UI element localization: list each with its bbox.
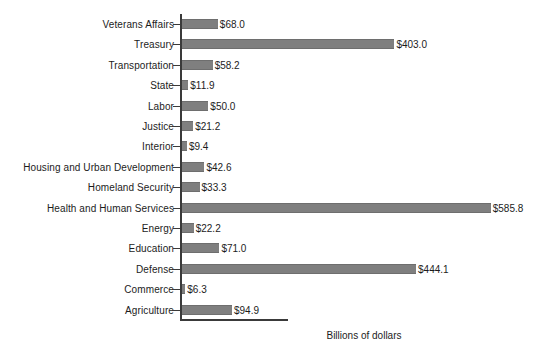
axis-tick (173, 310, 180, 311)
bar-row: Housing and Urban Development$42.6 (0, 157, 548, 178)
category-label: Commerce (124, 279, 174, 300)
bar-row: Justice$21.2 (0, 116, 548, 137)
bar-value-label: $21.2 (194, 121, 220, 132)
category-label: Education (129, 238, 174, 259)
category-label: Veterans Affairs (103, 14, 174, 35)
bar (182, 19, 218, 29)
axis-tick (173, 65, 180, 66)
category-label: Housing and Urban Development (23, 157, 174, 178)
category-label: Treasury (134, 34, 174, 55)
bar (182, 80, 188, 90)
bar-value-label: $11.9 (189, 80, 214, 91)
plot-area: Veterans Affairs$68.0Treasury$403.0Trans… (0, 0, 548, 349)
bar-row: Commerce$6.3 (0, 279, 548, 300)
bar-row: Homeland Security$33.3 (0, 177, 548, 198)
bar-value-label: $22.2 (195, 223, 221, 234)
category-label: Defense (136, 259, 174, 280)
bar-row: Health and Human Services$585.8 (0, 198, 548, 219)
bar-value-label: $33.3 (201, 182, 227, 193)
bar-row: Veterans Affairs$68.0 (0, 14, 548, 35)
bar-row: Transportation$58.2 (0, 55, 548, 76)
category-label: Health and Human Services (47, 198, 174, 219)
axis-tick (173, 106, 180, 107)
axis-tick (173, 24, 180, 25)
bar-row: Labor$50.0 (0, 96, 548, 117)
bar-row: State$11.9 (0, 75, 548, 96)
category-label: Energy (142, 218, 174, 239)
bar-row: Treasury$403.0 (0, 34, 548, 55)
category-label: Justice (142, 116, 174, 137)
bar-value-label: $42.6 (205, 162, 231, 173)
axis-tick (173, 289, 180, 290)
bar-value-label: $94.9 (233, 305, 259, 316)
axis-tick (173, 85, 180, 86)
bar (182, 141, 187, 151)
bar-value-label: $50.0 (209, 101, 235, 112)
category-label: Agriculture (125, 300, 174, 321)
category-label: Interior (142, 136, 174, 157)
bar (182, 121, 193, 131)
bar (182, 60, 213, 70)
axis-tick (173, 146, 180, 147)
category-label: Labor (148, 96, 174, 117)
axis-tick (173, 187, 180, 188)
bar-value-label: $6.3 (186, 284, 206, 295)
bar (182, 39, 394, 49)
bar-row: Education$71.0 (0, 238, 548, 259)
bar (182, 223, 194, 233)
bar-value-label: $444.1 (417, 264, 449, 275)
axis-tick (173, 228, 180, 229)
bar-row: Interior$9.4 (0, 136, 548, 157)
bar (182, 203, 491, 213)
axis-tick (173, 248, 180, 249)
bar (182, 243, 219, 253)
bar (182, 305, 232, 315)
bar (182, 182, 200, 192)
bar (182, 101, 208, 111)
bar-chart: Veterans Affairs$68.0Treasury$403.0Trans… (0, 0, 548, 349)
bar-row: Energy$22.2 (0, 218, 548, 239)
bar-value-label: $403.0 (395, 39, 427, 50)
bar-row: Agriculture$94.9 (0, 300, 548, 321)
bar-value-label: $71.0 (220, 243, 246, 254)
bar (182, 162, 204, 172)
bar (182, 264, 416, 274)
bar-value-label: $68.0 (219, 19, 245, 30)
axis-tick (173, 269, 180, 270)
bar-value-label: $58.2 (214, 60, 240, 71)
bar-value-label: $9.4 (188, 141, 208, 152)
axis-tick (173, 126, 180, 127)
bar-row: Defense$444.1 (0, 259, 548, 280)
bar-value-label: $585.8 (492, 203, 524, 214)
axis-tick (173, 44, 180, 45)
category-label: State (150, 75, 174, 96)
bar (182, 284, 185, 294)
axis-tick (173, 167, 180, 168)
x-axis-title: Billions of dollars (180, 330, 548, 341)
axis-tick (173, 208, 180, 209)
category-label: Transportation (108, 55, 174, 76)
category-label: Homeland Security (88, 177, 174, 198)
